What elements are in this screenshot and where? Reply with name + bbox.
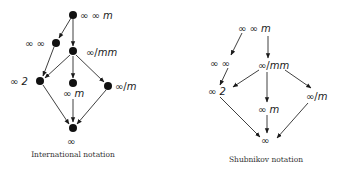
shubnikov-diagram: ∞ ∞ m ∞ ∞ ∞/mm ∞ 2 ∞/m ∞ m ∞ Shubnikov n… [208,23,328,164]
node-inf-inf: ∞ ∞ [25,38,60,49]
node-inf-inf: ∞ ∞ [210,58,230,69]
international-diagram: ∞ ∞ m ∞ ∞ ∞/mm ∞ 2 ∞ m ∞/m ∞ Internation… [10,10,137,159]
node-label: ∞ ∞ m [80,10,113,21]
node-label: ∞ 2 [10,76,28,87]
node-inf-2: ∞ 2 [208,86,226,97]
node-label: ∞/mm [86,47,117,58]
caption-shubnikov: Shubnikov notation [229,155,303,164]
node-inf-m: ∞ m [63,79,85,99]
node-inf-2: ∞ 2 [10,76,44,87]
node-inf-slash-m: ∞/m [306,91,328,102]
caption-international: International notation [31,150,115,159]
node-label: ∞ [67,136,75,147]
node-dot [36,77,44,85]
node-inf: ∞ [67,124,77,147]
node-label: ∞ ∞ [25,38,45,49]
node-inf-mm: ∞/mm [258,60,289,71]
node-top: ∞ ∞ m [238,23,271,34]
node-label: ∞/m [115,81,137,92]
node-dot [104,82,112,90]
subgroup-diagrams: ∞ ∞ m ∞ ∞ ∞/mm ∞ 2 ∞ m ∞/m ∞ Internation… [0,0,338,172]
node-inf-mm: ∞/mm [69,47,117,58]
node-inf-m: ∞ m [258,104,280,115]
node-dot [69,79,77,87]
node-dot [69,124,77,132]
node-inf: ∞ [261,135,269,146]
node-dot [69,11,77,19]
edges [43,18,106,124]
node-top: ∞ ∞ m [69,10,113,21]
edges [220,33,311,138]
node-dot [69,47,77,55]
node-inf-slash-m: ∞/m [104,81,137,92]
node-dot [52,39,60,47]
node-label: ∞ m [63,88,85,99]
